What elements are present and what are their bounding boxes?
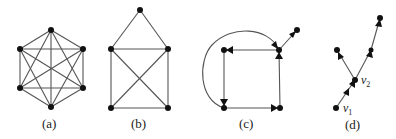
panel-d-vertices xyxy=(333,15,383,111)
panel-d-caption: (d) xyxy=(345,117,360,132)
panel-d-arrowheads xyxy=(338,19,382,96)
panel-c-edges xyxy=(203,30,297,108)
panel-d-edges xyxy=(336,18,380,108)
panel-b-edges xyxy=(111,10,168,108)
panel-a-caption: (a) xyxy=(42,116,56,131)
panel-b-house-graph: (b) xyxy=(108,7,171,131)
panel-c-directed-graph: (c) xyxy=(203,27,300,131)
panel-d-directed-tree: v1 v2 (d) xyxy=(333,15,383,132)
panel-a-complete-graph: (a) xyxy=(17,27,86,131)
vertex-label-v1: v1 xyxy=(343,101,352,117)
panel-a-edges xyxy=(20,30,83,107)
panel-b-vertices xyxy=(108,7,171,111)
panel-c-caption: (c) xyxy=(239,116,253,131)
graph-figure: (a) (b) xyxy=(0,0,396,139)
vertex-label-v2: v2 xyxy=(361,73,370,89)
panel-b-caption: (b) xyxy=(131,116,146,131)
